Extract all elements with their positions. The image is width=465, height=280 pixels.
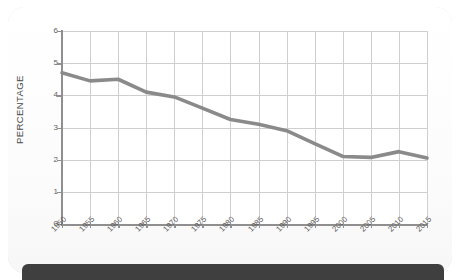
footer-bar	[22, 264, 444, 280]
line-chart: 0123456 PERCENTAGE 195019551960196519701…	[0, 0, 465, 280]
series-line-percentage	[62, 73, 427, 158]
data-series-svg	[0, 0, 465, 280]
screenshot-root: 0123456 PERCENTAGE 195019551960196519701…	[0, 0, 465, 280]
